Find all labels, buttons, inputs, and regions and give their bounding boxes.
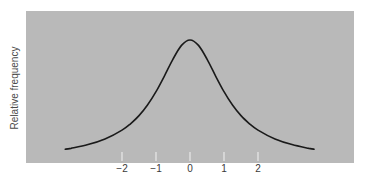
plot-panel bbox=[26, 11, 354, 163]
x-tick-label: 1 bbox=[221, 163, 227, 174]
x-tick-label: −1 bbox=[150, 163, 162, 174]
x-tick-label: 0 bbox=[187, 163, 193, 174]
chart: −2−1012 Relative frequency bbox=[0, 0, 367, 182]
x-tick-label: −2 bbox=[116, 163, 128, 174]
x-tick-label: 2 bbox=[255, 163, 261, 174]
y-axis-label: Relative frequency bbox=[9, 47, 20, 130]
x-axis-tick-labels: −2−1012 bbox=[116, 163, 261, 174]
